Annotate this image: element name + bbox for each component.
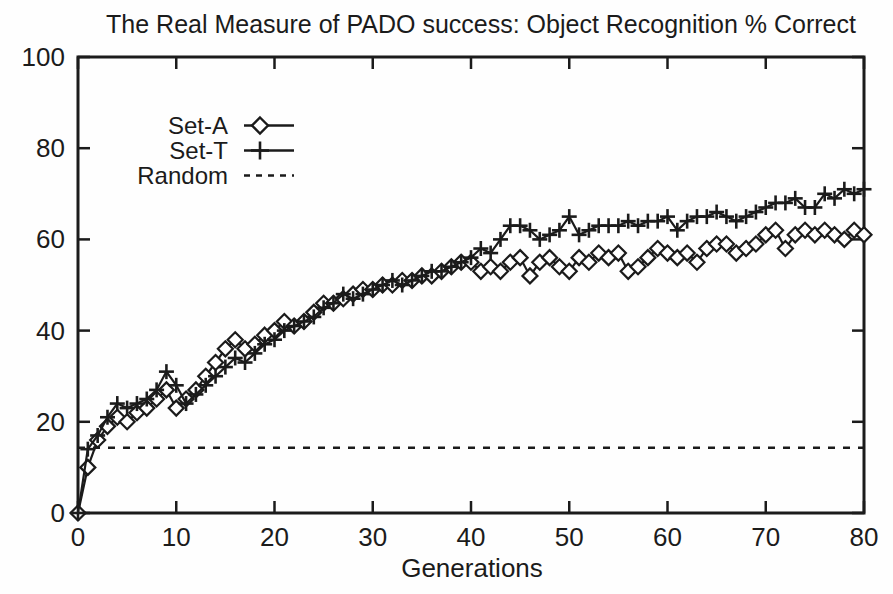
plot-canvas (0, 0, 893, 594)
figure: The Real Measure of PADO success: Object… (0, 0, 893, 594)
x-tick-label: 20 (260, 522, 289, 553)
legend-label-set-t: Set-T (112, 138, 228, 163)
x-tick-label: 30 (358, 522, 387, 553)
series-line-set-a (78, 230, 864, 513)
legend-item-set-t: Set-T (112, 138, 296, 163)
legend: Set-A Set-T Random (112, 113, 296, 188)
y-tick-label: 20 (36, 406, 65, 437)
x-tick-label: 10 (162, 522, 191, 553)
y-tick-label: 80 (36, 133, 65, 164)
legend-label-set-a: Set-A (112, 113, 228, 138)
x-tick-label: 50 (555, 522, 584, 553)
legend-label-random: Random (112, 163, 228, 188)
x-axis-title: Generations (401, 553, 543, 584)
x-tick-label: 0 (71, 522, 85, 553)
y-tick-label: 60 (36, 224, 65, 255)
diamond-marker-sample-icon (242, 113, 296, 138)
legend-item-random: Random (112, 163, 296, 188)
diamond-marker (522, 268, 537, 283)
chart-title: The Real Measure of PADO success: Object… (106, 10, 856, 39)
series-line-set-t (78, 189, 864, 513)
x-tick-label: 70 (751, 522, 780, 553)
diamond-marker (778, 241, 793, 256)
x-tick-label: 60 (653, 522, 682, 553)
plus-marker-sample-icon (242, 138, 296, 163)
x-tick-label: 80 (850, 522, 879, 553)
legend-item-set-a: Set-A (112, 113, 296, 138)
dashed-line-sample-icon (242, 163, 296, 188)
y-tick-label: 40 (36, 315, 65, 346)
diamond-marker (80, 460, 95, 475)
y-tick-label: 100 (22, 42, 65, 73)
x-tick-label: 40 (457, 522, 486, 553)
y-tick-label: 0 (51, 498, 65, 529)
